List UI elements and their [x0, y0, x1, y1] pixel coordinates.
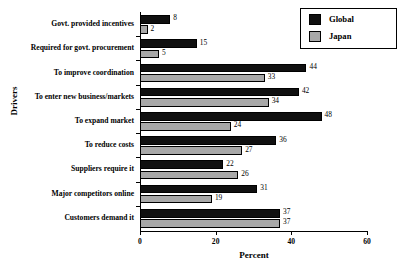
- bar-group: 3627: [140, 133, 367, 157]
- bar-group: 4433: [140, 60, 367, 84]
- y-axis-title: Drivers: [9, 66, 19, 136]
- category-label: Govt. provided incentives: [0, 19, 134, 28]
- bar-value-label: 27: [245, 146, 252, 155]
- bar-group: 3737: [140, 206, 367, 230]
- x-tick-label: 60: [363, 237, 371, 246]
- bar-group: 4234: [140, 85, 367, 109]
- bar-value-label: 36: [279, 136, 286, 145]
- bar-global: [140, 88, 299, 97]
- bar-global: [140, 39, 197, 48]
- bar-japan: [140, 50, 159, 59]
- bar-japan: [140, 98, 269, 107]
- bar-global: [140, 64, 306, 73]
- bar-group: 2226: [140, 157, 367, 181]
- bar-global: [140, 185, 257, 194]
- bar-value-label: 48: [325, 111, 332, 120]
- chart-legend: GlobalJapan: [300, 8, 397, 49]
- x-axis-line: [140, 231, 368, 232]
- legend-swatch-global: [309, 14, 321, 25]
- bar-japan: [140, 146, 242, 155]
- legend-label: Japan: [329, 30, 351, 43]
- bar-value-label: 37: [283, 218, 290, 227]
- x-tick-label: 40: [288, 237, 296, 246]
- bar-value-label: 2: [151, 25, 155, 34]
- bar-japan: [140, 195, 212, 204]
- bar-group: 4824: [140, 109, 367, 133]
- category-label: To improve coordination: [0, 68, 134, 77]
- bar-japan: [140, 74, 265, 83]
- bar-global: [140, 136, 276, 145]
- bar-global: [140, 112, 322, 121]
- bar-chart: Govt. provided incentivesRequired for go…: [0, 0, 407, 278]
- bar-value-label: 31: [260, 184, 267, 193]
- legend-label: Global: [329, 13, 354, 26]
- category-label: Suppliers require it: [0, 164, 134, 173]
- bar-value-label: 8: [173, 14, 177, 23]
- legend-swatch-japan: [309, 31, 321, 42]
- bar-value-label: 42: [302, 87, 309, 96]
- bar-value-label: 15: [200, 39, 207, 48]
- bar-value-label: 24: [234, 121, 241, 130]
- category-label: To enter new business/markets: [0, 92, 134, 101]
- bar-value-label: 5: [162, 49, 166, 58]
- bar-japan: [140, 122, 231, 131]
- x-tick-label: 20: [212, 237, 220, 246]
- x-tick: [140, 231, 141, 235]
- bar-japan: [140, 25, 148, 34]
- bar-global: [140, 209, 280, 218]
- bar-japan: [140, 219, 280, 228]
- category-label: Required for govt. procurement: [0, 43, 134, 52]
- bar-japan: [140, 171, 238, 180]
- x-tick: [367, 231, 368, 235]
- bar-value-label: 37: [283, 208, 290, 217]
- bar-global: [140, 15, 170, 24]
- category-label: Major competitors online: [0, 189, 134, 198]
- x-axis-title: Percent: [140, 250, 368, 260]
- bar-value-label: 26: [241, 170, 248, 179]
- bar-group: 3119: [140, 182, 367, 206]
- category-label: Customers demand it: [0, 213, 134, 222]
- x-tick: [216, 231, 217, 235]
- bar-value-label: 33: [268, 73, 275, 82]
- bar-value-label: 22: [226, 160, 233, 169]
- category-label: To expand market: [0, 116, 134, 125]
- bar-global: [140, 160, 223, 169]
- x-tick-label: 0: [138, 237, 142, 246]
- bar-value-label: 44: [309, 63, 316, 72]
- bar-value-label: 19: [215, 194, 222, 203]
- x-tick: [291, 231, 292, 235]
- bar-value-label: 34: [272, 97, 279, 106]
- category-label: To reduce costs: [0, 140, 134, 149]
